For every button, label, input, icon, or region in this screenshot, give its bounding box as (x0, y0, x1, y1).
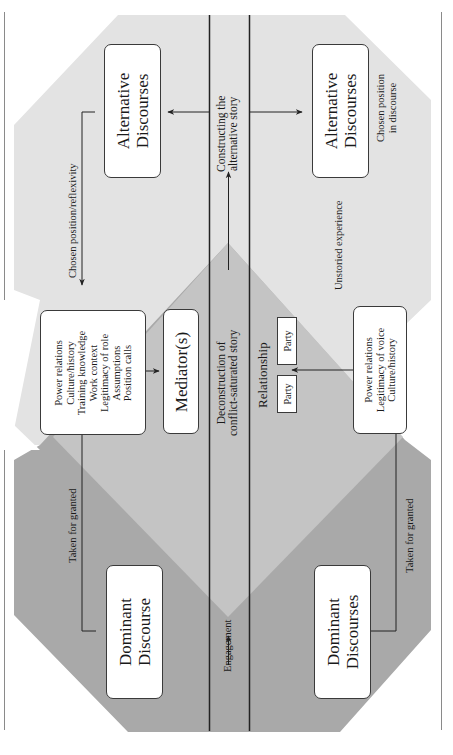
dominant-discourses-lower-label: Dominant Discourses (324, 595, 362, 670)
constructing-line-2: alternative story (227, 96, 239, 172)
party-right-box: Party (277, 317, 297, 365)
dominant-discourse-label: Dominant Discourse (116, 598, 154, 666)
alternative-discourses-lower-label: Alternative Discourses (322, 73, 360, 149)
deconstruction-line-1: Deconstruction of (215, 330, 227, 436)
alternative-lower-line-1: Alternative (322, 73, 341, 149)
alternative-discourses-lower-box: Alternative Discourses (312, 44, 369, 178)
mediator-label: Mediator(s) (172, 331, 191, 411)
dominant-lower-line-1: Dominant (324, 595, 343, 670)
factor-power-relations: Power relations (53, 330, 65, 414)
party-left-box: Party (277, 375, 297, 413)
factor-assumptions: Assumptions (110, 330, 122, 414)
party-left-label: Party (282, 383, 293, 404)
alternative-upper-line-1: Alternative (114, 73, 133, 149)
alternative-lower-line-2: Discourses (341, 73, 360, 149)
constructing-label: Constructing the alternative story (215, 96, 239, 172)
dominant-line-1: Dominant (116, 598, 135, 666)
party-factors-list: Power relations Legitimacy of voice Cult… (363, 328, 398, 413)
dominant-lower-line-2: Discourses (343, 595, 362, 670)
alternative-upper-line-2: Discourses (133, 73, 152, 149)
taken-for-granted-upper-label: Taken for granted (67, 489, 79, 563)
chosen-position-reflexivity-label: Chosen position/reflexivity (67, 163, 79, 278)
mediator-factors-box: Power relations Culture/history Training… (40, 310, 146, 435)
party-factor-power-relations: Power relations (363, 328, 375, 413)
party-factor-legitimacy-of-voice: Legitimacy of voice (374, 328, 386, 413)
relationship-label: Relationship (256, 342, 270, 408)
party-factor-culture-history: Culture/history (386, 328, 398, 413)
deconstruction-line-2: conflict-saturated story (227, 330, 239, 436)
chosen-position-in-discourse-label: Chosen position in discourse (375, 74, 398, 142)
factor-legitimacy-of-role: Legitimacy of role (99, 330, 111, 414)
deconstruction-label: Deconstruction of conflict-saturated sto… (215, 330, 239, 436)
mediator-factors-list: Power relations Culture/history Training… (53, 330, 134, 414)
mediator-box: Mediator(s) (163, 309, 199, 434)
chosen-position-line-1: Chosen position (375, 74, 387, 142)
factor-training-knowledge: Training knowledge (76, 330, 88, 414)
alternative-discourses-upper-label: Alternative Discourses (114, 73, 152, 149)
engagement-label: Engagement (222, 620, 234, 672)
constructing-line-1: Constructing the (215, 96, 227, 172)
factor-position-calls: Position calls (122, 330, 134, 414)
factor-culture-history: Culture/history (64, 330, 76, 414)
party-right-label: Party (282, 330, 293, 351)
factor-work-context: Work context (87, 330, 99, 414)
dominant-line-2: Discourse (135, 598, 154, 666)
dominant-discourse-box: Dominant Discourse (106, 565, 163, 699)
chosen-position-line-2: in discourse (387, 74, 399, 142)
taken-for-granted-lower-label: Taken for granted (404, 499, 416, 573)
alternative-discourses-upper-box: Alternative Discourses (104, 44, 161, 178)
unstoried-experience-label: Unstoried experience (333, 200, 345, 290)
dominant-discourses-lower-box: Dominant Discourses (314, 565, 371, 699)
party-factors-box: Power relations Legitimacy of voice Cult… (353, 306, 407, 434)
